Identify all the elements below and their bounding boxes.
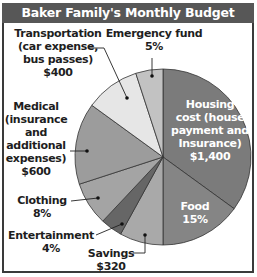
label-medical: Medical (insurance and additional expens…: [4, 100, 68, 178]
label-food: Food 15%: [170, 200, 220, 226]
label-transportation: Transportation (car expense, bus passes)…: [6, 27, 110, 79]
label-savings: Savings $320: [86, 247, 136, 273]
label-emergency-fund: Emergency fund 5%: [104, 27, 204, 53]
label-entertainment: Entertainment 4%: [6, 229, 96, 255]
label-clothing: Clothing 8%: [14, 194, 70, 220]
label-housing: Housing cost (house payment and Insuranc…: [170, 98, 250, 163]
